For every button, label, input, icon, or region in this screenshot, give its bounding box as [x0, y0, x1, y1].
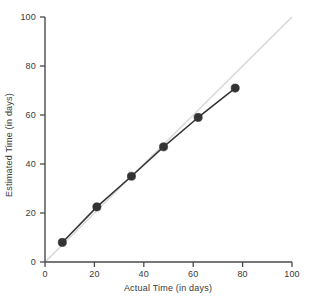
data-point-marker [194, 113, 202, 121]
y-axis-ticks [40, 17, 45, 262]
reference-line-path [45, 17, 292, 262]
chart-container: 020406080100 020406080100 Actual Time (i… [0, 0, 316, 304]
x-axis-tick-label: 80 [237, 269, 247, 279]
y-axis-tick-label: 0 [0, 257, 36, 267]
data-point-marker [58, 238, 66, 246]
reference-line-identity [45, 17, 292, 262]
y-axis-tick-label: 100 [0, 12, 36, 22]
chart-plot-area [0, 0, 316, 304]
x-axis-title: Actual Time (in days) [124, 283, 212, 293]
y-axis-tick-label: 80 [0, 61, 36, 71]
x-axis-tick-label: 20 [89, 269, 99, 279]
y-axis-tick-label: 20 [0, 208, 36, 218]
x-axis-tick-label: 0 [42, 269, 47, 279]
data-point-marker [231, 84, 239, 92]
x-axis-tick-label: 40 [139, 269, 149, 279]
x-axis-tick-label: 100 [284, 269, 300, 279]
x-axis-tick-label: 60 [188, 269, 198, 279]
data-point-marker [93, 203, 101, 211]
data-point-marker [159, 143, 167, 151]
data-point-marker [127, 172, 135, 180]
y-axis-title: Estimated Time (in days) [4, 93, 14, 197]
x-axis-ticks [45, 262, 292, 267]
